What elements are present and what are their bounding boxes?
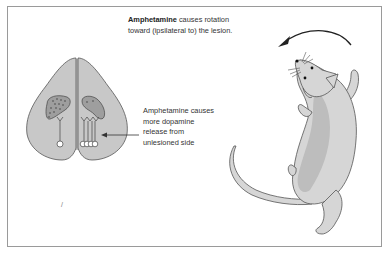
dopamine-release-caption: Amphetamine causes more dopamine release… <box>143 106 243 148</box>
amphetamine-bold: Amphetamine <box>128 15 177 24</box>
side-caption-line: unlesioned side <box>143 138 243 149</box>
rotation-caption-line2: toward (ipsilateral to) the lesion. <box>128 26 288 37</box>
rat-illustration <box>230 52 359 234</box>
rotation-caption: Amphetamine causes rotation toward (ipsi… <box>128 15 288 36</box>
stray-mark: / <box>61 201 63 208</box>
side-caption-line: release from <box>143 127 243 138</box>
rotation-caption-line1: Amphetamine causes rotation <box>128 15 288 26</box>
side-caption-line: Amphetamine causes <box>143 106 243 117</box>
rotation-arrow-icon <box>278 31 351 47</box>
brain-diagram <box>27 58 128 160</box>
side-caption-line: more dopamine <box>143 117 243 128</box>
